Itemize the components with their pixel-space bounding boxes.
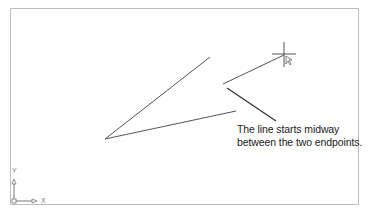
- ucs-icon: [12, 179, 37, 203]
- drawn-line-lower: [105, 111, 236, 139]
- crosshair-cursor-icon: [272, 42, 296, 67]
- callout-line-1: The line starts midway: [237, 123, 362, 136]
- drawn-line-upper: [105, 57, 210, 139]
- ucs-x-label: X: [41, 197, 46, 204]
- drawing-canvas: [0, 0, 369, 215]
- callout-line-2: between the two endpoints.: [237, 136, 362, 149]
- callout-text: The line starts midway between the two e…: [237, 123, 362, 149]
- ucs-y-label: Y: [12, 167, 17, 174]
- callout-leader: [227, 88, 276, 121]
- rubber-band-line: [223, 55, 284, 84]
